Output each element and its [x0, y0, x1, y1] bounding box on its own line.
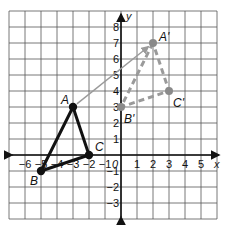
y-tick-label: 7: [113, 37, 119, 49]
image-vertex-point: [117, 103, 125, 111]
y-tick-label: −3: [106, 197, 119, 209]
y-tick-label: 1: [113, 133, 119, 145]
original-vertex-point: [37, 167, 45, 175]
y-tick-label: 4: [113, 85, 119, 97]
point-label-bprime: B': [124, 112, 135, 126]
x-tick-label: 3: [166, 158, 172, 170]
point-label-a: A: [60, 93, 69, 107]
original-vertex-point: [85, 151, 93, 159]
x-tick-label: 5: [198, 158, 204, 170]
x-tick-label: 2: [150, 158, 156, 170]
point-label-cprime: C': [173, 96, 185, 110]
y-tick-label: −2: [106, 181, 119, 193]
tick-labels: −6−5−4−3−2−11234587654321−1−2−30: [19, 21, 204, 209]
x-tick-label: 1: [134, 158, 140, 170]
x-tick-label: 4: [182, 158, 188, 170]
x-tick-label: −6: [19, 158, 32, 170]
point-label-b: B: [30, 174, 38, 188]
original-vertex-point: [69, 103, 77, 111]
image-vertex-point: [149, 39, 157, 47]
origin-label: 0: [112, 158, 119, 170]
point-label-aprime: A': [158, 30, 170, 44]
y-tick-label: 2: [113, 117, 119, 129]
x-tick-label: −2: [83, 158, 96, 170]
image-vertex-point: [165, 87, 173, 95]
coordinate-plane: xy −6−5−4−3−2−11234587654321−1−2−30 ABCA…: [0, 0, 227, 229]
x-axis-label: x: [213, 158, 220, 170]
y-tick-label: 6: [113, 53, 119, 65]
y-tick-label: 8: [113, 21, 119, 33]
y-axis-label: y: [125, 10, 133, 22]
point-label-c: C: [95, 140, 104, 154]
